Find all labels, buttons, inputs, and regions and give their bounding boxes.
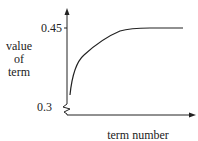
y-axis-label-line3: term bbox=[8, 65, 31, 79]
axis-break-icon bbox=[63, 104, 70, 115]
chart-canvas: 0.45 0.3 value of term term number bbox=[0, 0, 198, 141]
y-axis-arrow-icon bbox=[65, 8, 70, 15]
y-tick-label-045: 0.45 bbox=[41, 21, 62, 35]
data-curve bbox=[70, 28, 183, 95]
y-axis-label-line1: value bbox=[6, 39, 32, 53]
x-axis-label: term number bbox=[107, 128, 169, 141]
y-tick-label-03: 0.3 bbox=[37, 100, 52, 114]
x-axis-arrow-icon bbox=[189, 113, 196, 118]
y-axis-label-line2: of bbox=[14, 52, 24, 66]
